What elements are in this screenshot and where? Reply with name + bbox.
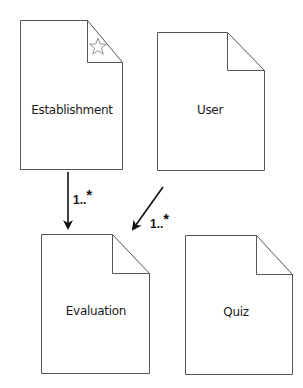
multiplicity-star: * xyxy=(163,210,169,227)
node-label-user: User xyxy=(197,103,223,117)
multiplicity-label-user-evaluation: 1..* xyxy=(150,214,169,231)
node-establishment[interactable] xyxy=(21,21,123,170)
multiplicity-range: 1.. xyxy=(73,193,86,207)
diagram-canvas xyxy=(0,0,303,388)
node-label-establishment: Establishment xyxy=(31,103,113,117)
multiplicity-range: 1.. xyxy=(150,217,163,231)
node-label-evaluation: Evaluation xyxy=(66,304,126,318)
node-user[interactable] xyxy=(158,33,265,171)
node-label-quiz: Quiz xyxy=(223,305,248,319)
multiplicity-star: * xyxy=(86,186,92,203)
multiplicity-label-establishment-evaluation: 1..* xyxy=(73,190,92,207)
